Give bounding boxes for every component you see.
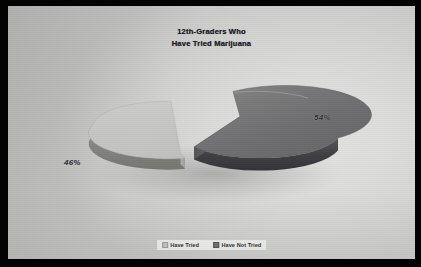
- pie-slice-have-tried: [89, 101, 185, 170]
- legend-item-have-tried: Have Tried: [162, 242, 199, 248]
- legend-label-have-tried: Have Tried: [170, 242, 199, 248]
- pie-label-have-not-tried: 54%: [314, 113, 331, 122]
- legend-swatch-icon-have-not-tried: [213, 242, 219, 248]
- chart-legend: Have Tried Have Not Tried: [157, 240, 267, 250]
- pie-label-have-tried: 46%: [64, 158, 81, 167]
- slide-photo-frame: 12th-Graders Who Have Tried Marijuana: [0, 0, 421, 267]
- legend-label-have-not-tried: Have Not Tried: [221, 242, 261, 248]
- pie-slice-have-not-tried-top: [194, 85, 371, 158]
- legend-swatch-icon-have-tried: [162, 242, 168, 248]
- pie-chart: [8, 6, 415, 259]
- pie-slice-have-not-tried: [194, 85, 371, 170]
- slide-surface: 12th-Graders Who Have Tried Marijuana: [8, 6, 415, 259]
- legend-item-have-not-tried: Have Not Tried: [213, 242, 261, 248]
- pie-chart-svg: [8, 6, 415, 259]
